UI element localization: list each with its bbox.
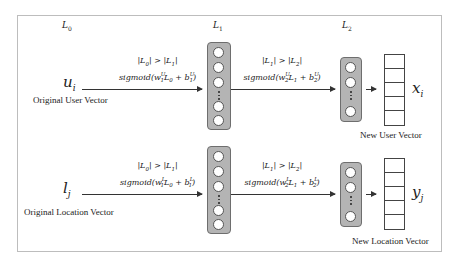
user-input-variable: ui bbox=[63, 73, 76, 93]
location-activation-1: sigmoid(wL1L0 + bL1) bbox=[95, 176, 220, 188]
user-output-variable: xi bbox=[412, 79, 423, 99]
location-output-caption: New Location Vector bbox=[352, 236, 429, 246]
neuron-node bbox=[213, 101, 224, 112]
neuron-node bbox=[213, 115, 224, 126]
user-activation-2: sigmoid(wU2L1 + bU2) bbox=[232, 71, 332, 83]
location-input-variable: lj bbox=[63, 179, 71, 199]
user-layer-l2 bbox=[340, 57, 362, 122]
neuron-node bbox=[345, 106, 356, 117]
user-input-caption: Original User Vector bbox=[33, 95, 108, 105]
neuron-node bbox=[345, 62, 356, 73]
neuron-node bbox=[213, 205, 224, 216]
user-size-constraint-2: |L1| > |L2| bbox=[232, 56, 332, 67]
layer-label-l2: L2 bbox=[342, 20, 352, 32]
neuron-node bbox=[345, 167, 356, 178]
neuron-node bbox=[213, 62, 224, 73]
user-output-vector bbox=[384, 54, 405, 126]
layer-label-l0: L0 bbox=[62, 20, 72, 32]
neuron-node bbox=[213, 47, 224, 58]
user-size-constraint-1: |L0| > |L1| bbox=[95, 56, 220, 67]
user-arrow-l1-l2 bbox=[231, 89, 335, 90]
neuron-node bbox=[213, 77, 224, 88]
location-output-vector bbox=[384, 158, 405, 230]
neuron-node bbox=[345, 182, 356, 193]
user-output-caption: New User Vector bbox=[360, 130, 422, 140]
neuron-node bbox=[345, 211, 356, 222]
neuron-node bbox=[213, 151, 224, 162]
location-layer-l2 bbox=[340, 162, 362, 227]
location-arrow-to-output bbox=[366, 194, 376, 195]
neuron-node bbox=[213, 219, 224, 230]
ellipsis-dots bbox=[218, 91, 220, 102]
user-layer-l1 bbox=[207, 42, 231, 130]
neuron-node bbox=[213, 181, 224, 192]
user-arrow-l0-l1 bbox=[82, 89, 202, 90]
location-output-variable: yj bbox=[412, 183, 423, 203]
location-size-constraint-1: |L0| > |L1| bbox=[95, 161, 220, 172]
neuron-node bbox=[345, 77, 356, 88]
location-activation-2: sigmoid(wL2L1 + bL2) bbox=[232, 176, 332, 188]
location-arrow-l1-l2 bbox=[231, 194, 335, 195]
ellipsis-dots bbox=[350, 196, 352, 207]
location-size-constraint-2: |L1| > |L2| bbox=[232, 161, 332, 172]
ellipsis-dots bbox=[350, 91, 352, 102]
user-activation-1: sigmoid(wU1L0 + bU1) bbox=[95, 71, 220, 83]
ellipsis-dots bbox=[218, 195, 220, 206]
user-arrow-to-output bbox=[366, 89, 376, 90]
location-arrow-l0-l1 bbox=[82, 194, 202, 195]
layer-label-l1: L1 bbox=[213, 20, 223, 32]
neuron-node bbox=[213, 166, 224, 177]
location-layer-l1 bbox=[207, 146, 231, 234]
location-input-caption: Original Location Vector bbox=[24, 207, 114, 217]
